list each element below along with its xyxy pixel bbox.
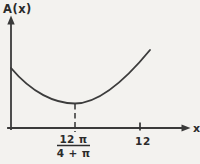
function-curve xyxy=(11,50,150,104)
y-axis-label: A(x) xyxy=(3,2,32,16)
minimum-label-numerator: 12 π xyxy=(59,133,87,145)
x-tick-12-label: 12 xyxy=(135,135,151,147)
plot-canvas: A(x) x 12 π 4 + π 12 xyxy=(0,0,200,164)
minimum-label-denominator: 4 + π xyxy=(57,147,91,159)
y-axis-arrow-icon xyxy=(7,16,14,25)
x-axis-arrow-icon xyxy=(182,124,191,131)
x-axis-label: x xyxy=(193,122,200,135)
function-plot-figure: A(x) x 12 π 4 + π 12 xyxy=(0,0,200,164)
